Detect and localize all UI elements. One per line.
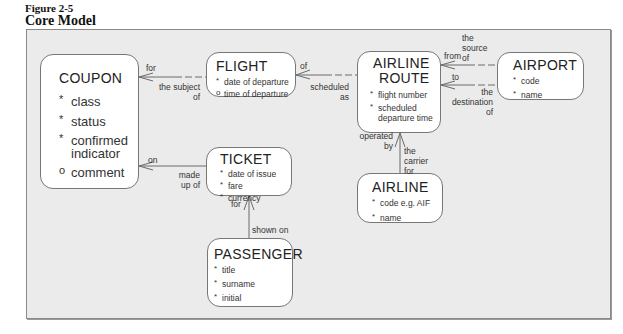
- attribute: *class: [59, 94, 138, 109]
- attribute: *name: [372, 212, 442, 224]
- attribute: *date of departure: [216, 76, 295, 88]
- label-coupon-ticket-made-up: madeup of: [170, 170, 200, 190]
- label-route-airline-operated: operatedby: [358, 131, 393, 151]
- attribute: ocomment: [59, 165, 138, 180]
- attribute: *title: [214, 264, 292, 276]
- label-flight-route-of: of: [300, 61, 307, 71]
- entity-airline-route[interactable]: AIRLINE ROUTE *flight number *scheduled …: [357, 51, 441, 133]
- attribute: otime of departure: [216, 88, 295, 100]
- entity-passenger[interactable]: PASSENGER *title *surname *initial: [207, 238, 293, 307]
- entity-coupon[interactable]: COUPON *class *status *confirmed indicat…: [40, 54, 139, 189]
- attribute: *name: [513, 89, 583, 101]
- entity-airport[interactable]: AIRPORT *code *name: [497, 52, 584, 100]
- attribute: *fare: [220, 180, 291, 192]
- label-ticket-passenger-for: for: [231, 199, 241, 209]
- label-route-airline-carrier: thecarrierfor: [404, 146, 428, 176]
- attribute: *scheduled departure time: [370, 103, 438, 123]
- entity-name: TICKET: [220, 152, 291, 167]
- attribute-list: *class *status *confirmed indicator ocom…: [59, 94, 138, 180]
- attribute-list: *code e.g. AIF *name: [372, 197, 442, 224]
- attribute: *status: [59, 114, 138, 129]
- label-route-airport-from: from: [444, 51, 461, 61]
- label-route-airport-destination: thedestinationof: [448, 87, 493, 117]
- entity-flight[interactable]: FLIGHT *date of departure otime of depar…: [206, 52, 296, 97]
- attribute: *flight number: [370, 89, 440, 101]
- label-ticket-passenger-shown-on: shown on: [252, 225, 288, 235]
- label-coupon-ticket-on: on: [148, 155, 157, 165]
- label-route-airport-to: to: [452, 72, 459, 82]
- attribute: *code: [513, 75, 583, 87]
- entity-name: PASSENGER: [214, 247, 292, 262]
- attribute: *surname: [214, 278, 292, 290]
- attribute-list: *code *name: [513, 75, 583, 101]
- entity-name: AIRLINE: [372, 180, 442, 195]
- attribute: *confirmed indicator: [59, 134, 141, 160]
- attribute-list: *title *surname *initial: [214, 264, 292, 304]
- label-coupon-flight-subject: the subjectof: [159, 82, 200, 102]
- label-flight-route-scheduled: scheduledas: [307, 82, 349, 102]
- entity-airline[interactable]: AIRLINE *code e.g. AIF *name: [357, 173, 443, 223]
- label-coupon-flight-for: for: [146, 63, 156, 73]
- attribute-list: *date of departure otime of departure: [216, 76, 295, 100]
- entity-name: AIRPORT: [513, 58, 583, 73]
- entity-name-line2: ROUTE: [370, 71, 440, 86]
- attribute: *initial: [214, 292, 292, 304]
- entity-name: FLIGHT: [216, 59, 295, 74]
- attribute: *code e.g. AIF: [372, 197, 442, 209]
- rel-coupon-flight-crowsfoot: [139, 73, 175, 81]
- entity-ticket[interactable]: TICKET *date of issue *fare *currency: [206, 147, 292, 196]
- attribute: *date of issue: [220, 168, 291, 180]
- entity-name: COUPON: [59, 71, 138, 86]
- attribute-list: *flight number *scheduled departure time: [370, 89, 440, 123]
- label-route-airport-source: thesourceof: [462, 33, 492, 63]
- entity-name-line1: AIRLINE: [370, 56, 440, 71]
